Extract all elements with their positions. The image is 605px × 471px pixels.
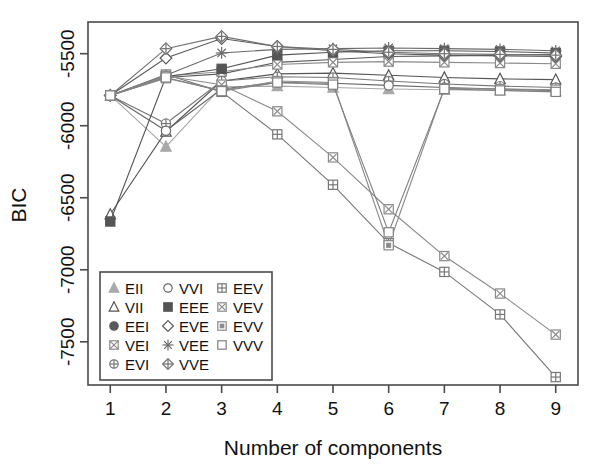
marker-square-plus (440, 267, 449, 276)
marker-square-plus (328, 180, 337, 189)
marker-crossed-square (328, 58, 337, 67)
marker-open-square (273, 78, 282, 87)
legend-label: EVV (233, 318, 263, 335)
y-tick-label: -5500 (57, 29, 78, 78)
x-tick-label: 4 (272, 398, 283, 419)
marker-square-x (218, 303, 226, 311)
marker-square-x (495, 289, 504, 298)
legend-label: VEV (233, 299, 263, 316)
marker-open-square (384, 228, 393, 237)
legend-label: VEE (179, 337, 209, 354)
x-tick-label: 9 (550, 398, 561, 419)
legend-label: EEE (179, 299, 209, 316)
marker-square-small (384, 241, 393, 250)
marker-open-square (551, 87, 560, 96)
legend-label: EVE (179, 318, 209, 335)
marker-open-square (440, 84, 449, 93)
chart-svg: 123456789-5500-6000-6500-7000-7500 EIIVI… (0, 0, 605, 471)
marker-open-circle (384, 81, 393, 90)
y-tick-label: -7000 (57, 245, 78, 294)
y-tick-label: -6000 (57, 101, 78, 150)
x-tick-label: 7 (439, 398, 450, 419)
marker-square-x (384, 205, 393, 214)
marker-square-plus (495, 310, 504, 319)
legend-label: VVE (179, 356, 209, 373)
legend-label: EEV (233, 280, 263, 297)
marker-square-x (551, 330, 560, 339)
legend-label: EVI (125, 356, 149, 373)
x-tick-label: 1 (105, 398, 116, 419)
marker-open-square (161, 73, 170, 82)
legend-layer: EIIVIIEEIVEIEVIVVIEEEEVEVEEVVEEEVVEVEVVV… (100, 272, 272, 380)
marker-filled-square (164, 303, 172, 311)
marker-open-circle (161, 126, 170, 135)
x-tick-label: 6 (383, 398, 394, 419)
marker-square-plus (551, 372, 560, 381)
legend-label: EII (125, 280, 143, 297)
marker-crossed-square (273, 60, 282, 69)
marker-asterisk (216, 47, 228, 59)
series-line (110, 86, 555, 147)
marker-crossed-square (110, 341, 118, 349)
x-tick-label: 3 (216, 398, 227, 419)
marker-square-x (440, 251, 449, 260)
x-tick-label: 2 (161, 398, 172, 419)
legend-label: EEI (125, 318, 149, 335)
marker-filled-square (217, 64, 226, 73)
y-axis-title: BIC (7, 187, 30, 222)
y-tick-label: -7500 (57, 317, 78, 366)
marker-open-square (106, 91, 115, 100)
series-line (110, 73, 555, 214)
marker-filled-circle (110, 322, 118, 330)
marker-filled-square (106, 217, 115, 226)
series-EII (105, 81, 561, 152)
marker-open-square (495, 86, 504, 95)
marker-square-plus (218, 284, 226, 292)
x-tick-label: 5 (328, 398, 339, 419)
marker-open-square (328, 80, 337, 89)
y-tick-label: -6500 (57, 173, 78, 222)
marker-open-circle (164, 284, 172, 292)
marker-square-x (273, 107, 282, 116)
legend-label: VEI (125, 337, 149, 354)
legend-label: VVV (233, 337, 263, 354)
x-tick-label: 8 (495, 398, 506, 419)
marker-asterisk (163, 340, 174, 351)
marker-open-square (218, 341, 226, 349)
marker-circle-plus (110, 360, 118, 368)
marker-square-x (328, 153, 337, 162)
legend-label: VVI (179, 280, 203, 297)
x-axis-title: Number of components (224, 436, 442, 459)
marker-open-square (217, 87, 226, 96)
marker-square-plus (273, 130, 282, 139)
legend-label: VII (125, 299, 143, 316)
bic-chart: 123456789-5500-6000-6500-7000-7500 EIIVI… (0, 0, 605, 471)
marker-square-small (218, 322, 226, 330)
